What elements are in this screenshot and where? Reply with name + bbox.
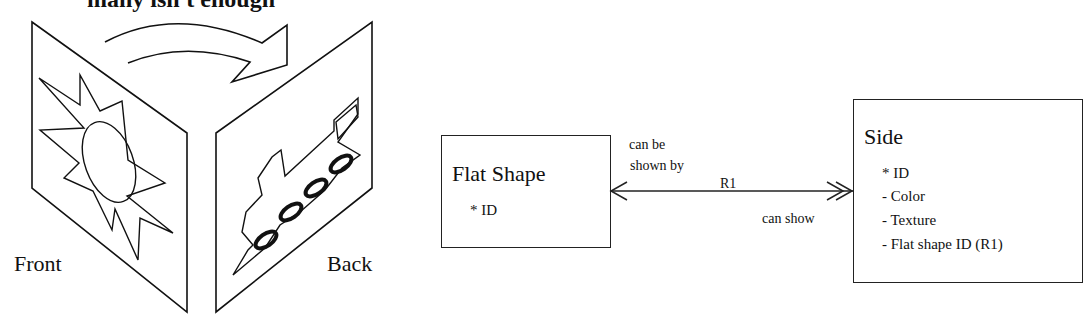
front-label: Front [14, 253, 62, 275]
entity-side-attr-texture: - Texture [882, 213, 936, 228]
sun-star-icon [39, 75, 173, 260]
relationship-phrase-left-2: shown by [630, 159, 684, 173]
train-window-icon [336, 105, 358, 139]
rotate-arrow-icon [105, 24, 287, 82]
entity-flat-shape-title: Flat Shape [452, 163, 546, 185]
relationship-phrase-left-1: can be [629, 138, 665, 152]
entity-side-title: Side [864, 126, 903, 148]
back-label: Back [327, 253, 372, 275]
train-wheels-icon [253, 152, 355, 252]
entity-side-attr-flat-shape-id: - Flat shape ID (R1) [882, 237, 1003, 252]
entity-flat-shape[interactable] [441, 135, 611, 248]
relationship-id: R1 [720, 177, 736, 191]
relationship-phrase-right: can show [762, 212, 815, 226]
entity-side-attr-id: * ID [882, 166, 909, 181]
heading: many isn't enough [87, 0, 275, 11]
entity-flat-shape-attr: * ID [470, 203, 497, 218]
entity-side-attr-color: - Color [882, 189, 925, 204]
